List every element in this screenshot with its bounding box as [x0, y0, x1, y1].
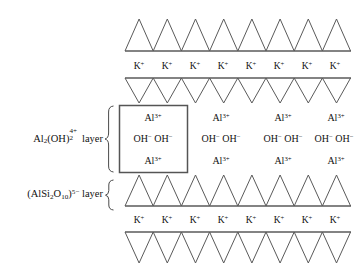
- triangle-down: [125, 78, 153, 103]
- al-symbol: Al: [212, 155, 222, 166]
- k-ion-label: K+: [293, 60, 321, 71]
- k-symbol: K: [190, 215, 197, 225]
- oh-symbol: OH: [201, 133, 215, 144]
- triangle-up: [125, 19, 153, 51]
- ion-al-cation: Al3+: [311, 112, 361, 123]
- k-ion-label: K+: [181, 60, 209, 71]
- tetrahedral-sheet-lower: [125, 175, 351, 206]
- al-symbol: Al: [144, 112, 154, 123]
- ion-al-cation: Al3+: [311, 155, 361, 166]
- al-charge: 3+: [222, 155, 229, 162]
- k-charge: +: [141, 60, 145, 67]
- formula-oh: (OH): [47, 133, 69, 144]
- formula-oh-sub: 2: [69, 135, 73, 143]
- k-symbol: K: [274, 215, 281, 225]
- k-symbol: K: [274, 61, 281, 71]
- al-charge: 3+: [154, 155, 161, 162]
- k-charge: +: [225, 214, 229, 221]
- k-charge: +: [141, 214, 145, 221]
- al-charge: 3+: [284, 112, 291, 119]
- k-ion-label: K+: [125, 214, 153, 225]
- k-ion-label: K+: [181, 214, 209, 225]
- k-symbol: K: [134, 215, 141, 225]
- al-symbol: Al: [144, 155, 154, 166]
- triangle-up: [322, 175, 350, 206]
- al-charge: 3+: [154, 112, 161, 119]
- ion-al-cation: Al3+: [190, 155, 252, 166]
- oh-charge: −: [278, 133, 282, 140]
- ion-al-cation: Al3+: [119, 155, 187, 166]
- triangle-up: [153, 19, 181, 51]
- label-suffix: layer: [82, 133, 103, 144]
- k-ion-label: K+: [209, 60, 237, 71]
- label-aluminum-hydroxide-layer: Al2(OH)4+2 layer: [8, 131, 103, 146]
- mica-structure-figure: Al2(OH)4+2 layer (AlSi2O10)5− layer K+ K…: [0, 0, 363, 274]
- k-ion-label: K+: [209, 214, 237, 225]
- k-charge: +: [253, 214, 257, 221]
- al-charge: 3+: [337, 155, 344, 162]
- k-ion-label: K+: [125, 60, 153, 71]
- triangle-down: [322, 78, 350, 103]
- k-symbol: K: [162, 215, 169, 225]
- al-symbol: Al: [327, 112, 337, 123]
- k-charge: +: [253, 60, 257, 67]
- k-symbol: K: [302, 215, 309, 225]
- oh-charge: −: [237, 133, 241, 140]
- label-silicate-layer: (AlSi2O10)5− layer: [8, 188, 103, 202]
- triangle-up: [238, 175, 266, 206]
- k-charge: +: [197, 214, 201, 221]
- k-symbol: K: [190, 61, 197, 71]
- ion-al-cation: Al3+: [119, 112, 187, 123]
- triangle-up: [238, 19, 266, 51]
- formula-alsi-open: (AlSi: [27, 188, 50, 199]
- ion-al-cation: Al3+: [190, 112, 252, 123]
- oh-charge: −: [216, 133, 220, 140]
- k-charge: +: [169, 60, 173, 67]
- k-symbol: K: [246, 215, 253, 225]
- al-charge: 3+: [284, 155, 291, 162]
- triangle-up: [322, 19, 350, 51]
- k-symbol: K: [302, 61, 309, 71]
- oh-symbol: OH: [154, 133, 168, 144]
- triangle-down: [210, 232, 238, 263]
- triangle-down: [181, 232, 209, 263]
- tetrahedral-sheet-bottom-inverted: [125, 232, 351, 263]
- k-ion-label: K+: [153, 214, 181, 225]
- k-charge: +: [169, 214, 173, 221]
- tetrahedral-sheet-top: [125, 19, 351, 51]
- k-symbol: K: [218, 61, 225, 71]
- k-ion-label: K+: [153, 60, 181, 71]
- triangle-down: [322, 232, 350, 263]
- k-ion-label: K+: [265, 60, 293, 71]
- k-ion-label: K+: [293, 214, 321, 225]
- triangle-down: [266, 232, 294, 263]
- k-charge: +: [337, 60, 341, 67]
- brace-aluminum-layer: [105, 106, 114, 172]
- oh-symbol: OH: [314, 133, 328, 144]
- triangle-down: [238, 78, 266, 103]
- formula-silicate-charge: 5−: [72, 188, 80, 196]
- triangle-down: [181, 78, 209, 103]
- k-ion-label: K+: [237, 60, 265, 71]
- ion-hydroxide-pair: OH− OH−: [190, 133, 252, 144]
- oh-charge: −: [148, 133, 152, 140]
- ion-al-cation: Al3+: [252, 155, 314, 166]
- triangle-up: [125, 175, 153, 206]
- triangle-up: [181, 19, 209, 51]
- triangle-down: [294, 78, 322, 103]
- tetrahedral-sheet-upper-inverted: [125, 78, 351, 103]
- k-charge: +: [281, 60, 285, 67]
- triangle-down: [125, 232, 153, 263]
- k-symbol: K: [162, 61, 169, 71]
- oh-charge: −: [329, 133, 333, 140]
- ion-hydroxide-pair: OH− OH−: [305, 133, 363, 144]
- triangle-down: [153, 232, 181, 263]
- triangle-down: [153, 78, 181, 103]
- k-symbol: K: [246, 61, 253, 71]
- al-charge: 3+: [222, 112, 229, 119]
- formula-al: Al: [33, 133, 44, 144]
- triangle-down: [266, 78, 294, 103]
- triangle-up: [266, 175, 294, 206]
- ion-hydroxide-pair: OH− OH−: [119, 133, 187, 144]
- k-ion-label: K+: [321, 60, 349, 71]
